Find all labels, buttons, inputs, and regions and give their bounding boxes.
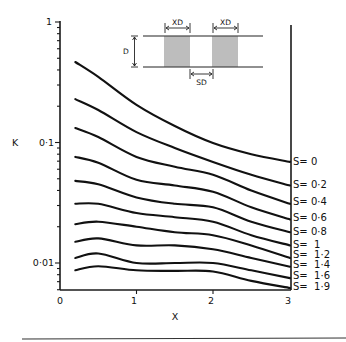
inset-label-d: D <box>123 47 129 56</box>
x-tick-label-1: 1 <box>131 295 137 306</box>
y-tick-label-0.1: 0·1 <box>39 137 54 148</box>
series-label-1: S= 0·2 <box>293 179 327 190</box>
series-label-0: S= 0 <box>293 156 317 167</box>
y-tick-label-0.01: 0·01 <box>33 257 54 268</box>
series-label-7: S= 1·4 <box>293 259 330 270</box>
series-label-4: S= 0·8 <box>293 226 327 237</box>
inset-diagram: XD XD D SD <box>123 18 263 87</box>
series-label-8: S= 1·6 <box>293 270 330 281</box>
inset-hatched-block-2 <box>213 36 237 67</box>
series-label-2: S= 0·4 <box>293 196 327 207</box>
bottom-rule <box>22 338 346 339</box>
series-label-9: S= 1·9 <box>293 281 330 292</box>
chart: 1 0·1 0·01 K 0 1 2 3 X S= 0S= 0·2S= 0·4S… <box>0 0 346 342</box>
inset-label-xd-2: XD <box>220 18 231 27</box>
x-tick-label-2: 2 <box>208 295 214 306</box>
inset-hatched-block-1 <box>165 36 189 67</box>
curve-series-8 <box>75 253 290 278</box>
x-axis-label: X <box>172 311 179 322</box>
y-tick-label-1: 1 <box>46 16 52 27</box>
y-axis-label: K <box>12 137 19 148</box>
series-labels: S= 0S= 0·2S= 0·4S= 0·6S= 0·8S= 1S= 1·2S=… <box>293 156 330 292</box>
series-label-3: S= 0·6 <box>293 212 327 223</box>
x-tick-label-0: 0 <box>57 295 63 306</box>
curve-series-0 <box>75 62 290 162</box>
curve-series-9 <box>75 266 290 288</box>
inset-label-xd-1: XD <box>172 18 183 27</box>
inset-label-sd: SD <box>196 78 207 87</box>
x-tick-label-3: 3 <box>285 295 291 306</box>
series-curves <box>75 62 290 288</box>
